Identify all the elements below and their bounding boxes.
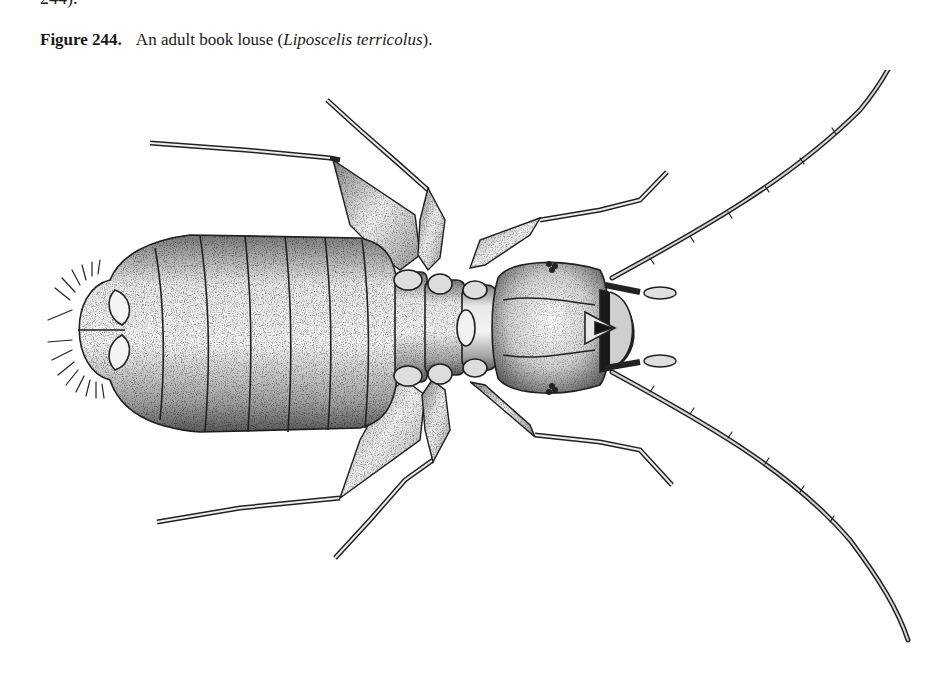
book-louse-illustration — [0, 70, 934, 682]
antenna-right — [612, 70, 910, 278]
figure-label: Figure 244. — [40, 30, 122, 49]
caption-text: An adult book louse ( — [136, 30, 283, 49]
antenna-left — [612, 372, 908, 640]
leg-1-upper — [470, 172, 667, 268]
species-name: Liposcelis terricolus — [283, 30, 422, 49]
figure-caption: Figure 244.An adult book louse (Liposcel… — [40, 30, 432, 50]
leg-1-lower — [470, 382, 672, 485]
caption-end: ). — [423, 30, 433, 49]
previous-text-fragment: 244). — [40, 0, 78, 9]
thorax — [394, 270, 497, 386]
abdomen — [78, 235, 400, 432]
